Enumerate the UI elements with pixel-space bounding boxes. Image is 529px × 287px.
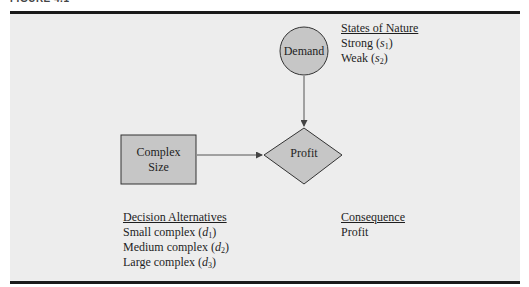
states-of-nature-block: States of Nature Strong (s1) Weak (s2)	[341, 21, 418, 66]
complex-size-line1: Complex	[121, 145, 196, 160]
consequence-heading: Consequence	[341, 210, 405, 225]
states-of-nature-heading: States of Nature	[341, 21, 418, 36]
complex-size-line2: Size	[121, 160, 196, 175]
state-item: Weak (s2)	[341, 51, 418, 66]
consequence-item: Profit	[341, 225, 405, 240]
complex-size-label: Complex Size	[121, 145, 196, 175]
profit-node-label: Profit	[280, 146, 328, 161]
decision-item: Large complex (d3)	[123, 255, 229, 270]
decision-alternatives-heading: Decision Alternatives	[123, 210, 229, 225]
consequence-block: Consequence Profit	[341, 210, 405, 240]
influence-diagram	[0, 0, 529, 287]
decision-item: Medium complex (d2)	[123, 240, 229, 255]
bottom-rule	[10, 281, 520, 284]
decision-item: Small complex (d1)	[123, 225, 229, 240]
demand-label: Demand	[280, 44, 328, 59]
state-item: Strong (s1)	[341, 36, 418, 51]
decision-alternatives-block: Decision Alternatives Small complex (d1)…	[123, 210, 229, 270]
